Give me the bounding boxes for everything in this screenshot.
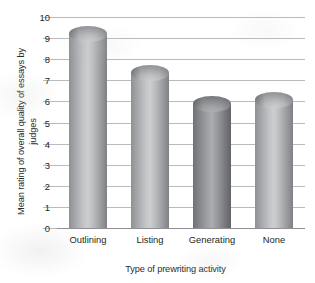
- y-axis-tick-label: 6: [45, 96, 50, 107]
- y-axis-tick-label: 0: [45, 223, 50, 234]
- bar-cylinder-cap-shading: [131, 65, 169, 81]
- y-axis-tick-label: 5: [45, 117, 50, 128]
- x-axis-tick-label-outlining: Outlining: [69, 234, 106, 245]
- gridline: [57, 228, 305, 229]
- bar-none: [255, 92, 293, 228]
- y-axis-tick-label: 10: [40, 12, 50, 23]
- x-axis-title: Type of prewriting activity: [0, 264, 315, 274]
- bar-body: [255, 100, 293, 228]
- y-axis-tick-label: 9: [45, 33, 50, 44]
- bar-body: [69, 34, 107, 228]
- y-axis-title: Mean rating of overall quality of essays…: [16, 37, 39, 227]
- y-axis-tick-label: 8: [45, 54, 50, 65]
- y-axis-tick-label: 2: [45, 180, 50, 191]
- bar-chart: Mean rating of overall quality of essays…: [0, 0, 315, 283]
- bar-body: [131, 73, 169, 228]
- x-axis-tick-label-generating: Generating: [189, 234, 235, 245]
- bar-body: [193, 104, 231, 228]
- bar-listing: [131, 65, 169, 228]
- x-axis-tick-label-listing: Listing: [136, 234, 163, 245]
- plot-area: 012345678910: [57, 17, 305, 228]
- bars-group: [57, 17, 305, 228]
- x-axis-tick-label-none: None: [263, 234, 285, 245]
- bar-cylinder-cap-shading: [69, 26, 107, 42]
- y-axis-tick-label: 7: [45, 75, 50, 86]
- y-axis-tick-label: 3: [45, 159, 50, 170]
- x-axis-tick-labels: OutliningListingGeneratingNone: [57, 234, 305, 250]
- bar-generating: [193, 96, 231, 228]
- y-axis-tick-label: 4: [45, 138, 50, 149]
- y-axis-tick-label: 1: [45, 201, 50, 212]
- bar-cylinder-cap-shading: [193, 96, 231, 112]
- bar-outlining: [69, 26, 107, 228]
